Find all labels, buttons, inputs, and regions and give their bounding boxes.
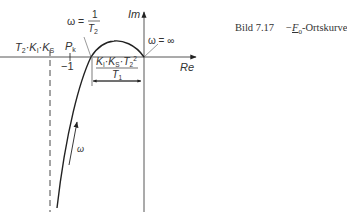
- caption-title: -Ortskurve: [302, 22, 347, 33]
- omega-crossing-leader: [84, 37, 91, 57]
- minus-one-label: −1: [61, 60, 74, 72]
- direction-label: ω: [77, 144, 84, 154]
- dimension-denominator: T1: [112, 68, 122, 81]
- critical-point-label: Pk: [65, 40, 76, 53]
- real-axis-label: Re: [180, 61, 194, 73]
- figure-label: Bild 7.17: [235, 22, 274, 33]
- figure-caption: Bild 7.17−F0-Ortskurve: [235, 22, 347, 36]
- omega-crossing-num: 1: [92, 9, 98, 20]
- asymptote-label: T2·KI·KS: [15, 41, 55, 54]
- omega-infinity-label: ω = ∞: [148, 35, 174, 46]
- omega-crossing-label: ω =: [67, 15, 84, 27]
- imag-axis-label: Im: [128, 8, 140, 20]
- omega-crossing-den: T2: [88, 23, 98, 35]
